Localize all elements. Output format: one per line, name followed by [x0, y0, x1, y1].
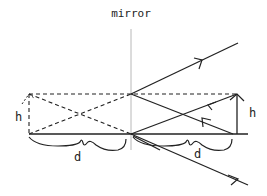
ray-arrow-incoming-top-icon	[208, 102, 216, 110]
mirror-label: mirror	[111, 7, 151, 20]
distance-brace-left	[29, 137, 126, 150]
height-label-left: h	[15, 110, 22, 124]
height-label-right: h	[249, 106, 256, 120]
distance-label-left: d	[74, 150, 81, 164]
distance-label-right: d	[194, 147, 201, 161]
mirror-reflection-diagram: mirror h d h d	[0, 0, 267, 196]
virtual-image-lines	[29, 94, 237, 134]
light-rays	[131, 43, 248, 185]
